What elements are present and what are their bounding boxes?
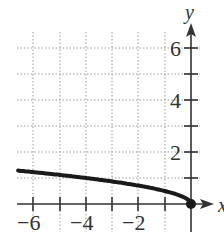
x-tick-label-neg4: −4 — [70, 210, 93, 235]
grid — [17, 32, 200, 232]
x-tick-label-neg2: −2 — [122, 210, 145, 235]
x-tick-label-neg6: −6 — [17, 210, 40, 235]
y-tick-label-2: 2 — [170, 140, 181, 165]
y-tick-label-6: 6 — [170, 36, 181, 61]
x-axis-label: x — [217, 194, 224, 216]
x-axis — [17, 197, 205, 211]
function-graph: x y −6 −4 −2 2 4 6 — [0, 0, 224, 246]
y-tick-label-4: 4 — [170, 88, 181, 113]
endpoint-origin — [186, 199, 196, 209]
y-axis-label: y — [183, 1, 194, 24]
